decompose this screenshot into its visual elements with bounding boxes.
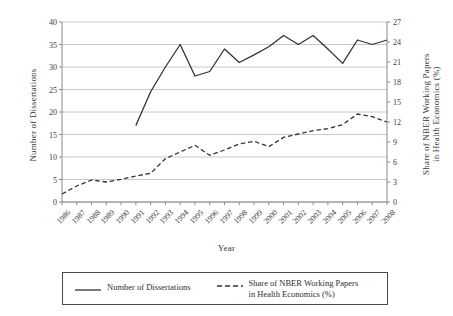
y-tick-label-left: 25	[30, 85, 57, 94]
chart-figure: Number of Dissertations Share of NBER Wo…	[0, 0, 453, 316]
y-tick-label-left: 15	[30, 130, 57, 139]
y-tick-label-right: 18	[393, 78, 415, 87]
y-tick-label-left: 5	[30, 175, 57, 184]
y-tick-label-right: 15	[393, 98, 415, 107]
y-tick-label-left: 0	[30, 198, 57, 207]
y-tick-label-right: 21	[393, 58, 415, 67]
y-tick-label-right: 6	[393, 158, 415, 167]
legend-line-dashed-icon	[217, 281, 243, 291]
y-tick-label-left: 20	[30, 108, 57, 117]
y-tick-label-right: 27	[393, 18, 415, 27]
chart-plot-area	[0, 0, 453, 316]
y-tick-label-right: 12	[393, 118, 415, 127]
legend-line-solid-icon	[75, 285, 101, 295]
y-tick-label-left: 40	[30, 18, 57, 27]
series-line-nber-share	[62, 114, 387, 194]
legend-label-dissertations: Number of Dissertations	[107, 282, 191, 293]
y-tick-label-left: 30	[30, 63, 57, 72]
legend-label-nber-share: Share of NBER Working Papers in Health E…	[249, 278, 359, 299]
y-axis-right-title: Share of NBER Working Papers in Health E…	[421, 34, 441, 194]
y-tick-label-right: 3	[393, 178, 415, 187]
y-tick-label-left: 35	[30, 40, 57, 49]
y-tick-label-right: 24	[393, 38, 415, 47]
chart-legend: Number of Dissertations Share of NBER Wo…	[62, 272, 388, 305]
y-tick-label-left: 10	[30, 153, 57, 162]
legend-item-nber-share: Share of NBER Working Papers in Health E…	[217, 278, 359, 299]
legend-item-dissertations: Number of Dissertations	[75, 282, 191, 295]
x-axis-title: Year	[0, 243, 453, 253]
y-tick-label-right: 0	[393, 198, 415, 207]
y-tick-label-right: 9	[393, 138, 415, 147]
